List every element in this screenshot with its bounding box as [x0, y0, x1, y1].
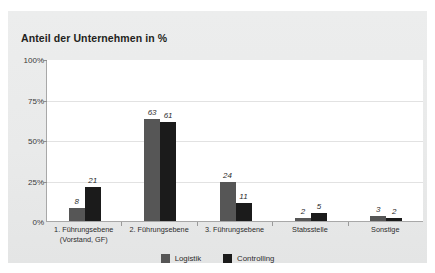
x-axis-label-2: 2. Führungsebene: [121, 225, 196, 235]
ytick-label-25: 25%: [28, 177, 44, 186]
bar-controlling-5[interactable]: [386, 218, 402, 221]
x-axis-label-line: 1. Führungsebene: [46, 225, 121, 235]
chart-card: Anteil der Unternehmen in % 100% 75% 50%…: [8, 11, 427, 263]
gridline-50: [47, 141, 423, 142]
bar-logistik-4[interactable]: [295, 218, 311, 221]
ytick-mark-75: [43, 101, 47, 102]
ytick-label-75: 75%: [28, 96, 44, 105]
bar-logistik-1[interactable]: [69, 208, 85, 221]
bar-logistik-3[interactable]: [220, 182, 236, 221]
legend-item-controlling[interactable]: Controlling: [223, 254, 274, 263]
ytick-mark-100: [43, 60, 47, 61]
gridline-75: [47, 101, 423, 102]
legend-swatch-controlling: [223, 254, 232, 263]
bar-value-controlling-1: 21: [79, 176, 107, 185]
bar-controlling-4[interactable]: [311, 213, 327, 221]
x-axis-label-line: Stabsstelle: [272, 225, 347, 235]
legend-label-controlling: Controlling: [237, 254, 274, 263]
x-axis-label-4: Stabsstelle: [272, 225, 347, 235]
bar-logistik-2[interactable]: [144, 119, 160, 221]
legend-label-logistik: Logistik: [175, 254, 201, 263]
bar-logistik-5[interactable]: [370, 216, 386, 221]
legend-item-logistik[interactable]: Logistik: [161, 254, 201, 263]
ytick-label-0: 0%: [32, 218, 44, 227]
bar-value-controlling-3: 11: [230, 192, 258, 201]
bar-value-controlling-5: 2: [380, 207, 408, 216]
page-title: Anteil der Unternehmen in %: [21, 32, 167, 44]
x-axis-label-line: 3. Führungsebene: [197, 225, 272, 235]
bar-value-logistik-3: 24: [214, 171, 242, 180]
x-axis-label-line: Sonstige: [348, 225, 423, 235]
x-axis-label-3: 3. Führungsebene: [197, 225, 272, 235]
bar-controlling-2[interactable]: [160, 122, 176, 221]
x-axis-label-5: Sonstige: [348, 225, 423, 235]
legend: Logistik Controlling: [8, 254, 427, 263]
plot-area: 821636124112532: [46, 60, 423, 222]
bar-value-controlling-4: 5: [305, 202, 333, 211]
ytick-mark-25: [43, 182, 47, 183]
bar-value-controlling-2: 61: [154, 111, 182, 120]
x-axis-label-line: (Vorstand, GF): [46, 235, 121, 245]
x-axis-label-1: 1. Führungsebene(Vorstand, GF): [46, 225, 121, 244]
bar-controlling-3[interactable]: [236, 203, 252, 221]
ytick-label-100: 100%: [24, 56, 44, 65]
x-axis-label-line: 2. Führungsebene: [121, 225, 196, 235]
bar-controlling-1[interactable]: [85, 187, 101, 221]
ytick-mark-50: [43, 141, 47, 142]
y-axis: 100% 75% 50% 25% 0%: [8, 60, 44, 222]
ytick-label-50: 50%: [28, 137, 44, 146]
legend-swatch-logistik: [161, 254, 170, 263]
